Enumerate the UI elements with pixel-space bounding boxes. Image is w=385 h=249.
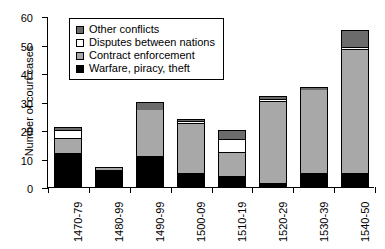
bar-segment bbox=[218, 176, 246, 187]
x-label-1540-50: 1540-50 bbox=[359, 202, 371, 242]
x-label-1470-79: 1470-79 bbox=[72, 202, 84, 242]
legend-label: Disputes between nations bbox=[89, 36, 215, 49]
legend-item: Warfare, piracy, theft bbox=[76, 62, 215, 75]
legend-item: Other conflicts bbox=[76, 23, 215, 36]
x-tick bbox=[375, 187, 376, 193]
legend-label: Contract enforcement bbox=[89, 49, 195, 62]
y-tick-label: 40 bbox=[21, 69, 33, 81]
legend-swatch-icon bbox=[76, 26, 84, 34]
bar-1470-79 bbox=[54, 127, 82, 187]
legend-swatch-icon bbox=[76, 65, 84, 73]
bar-1480-99 bbox=[95, 167, 123, 187]
bar-1510-19 bbox=[218, 130, 246, 187]
x-tick bbox=[212, 187, 213, 193]
legend-item: Contract enforcement bbox=[76, 49, 215, 62]
y-tick-label: 30 bbox=[21, 98, 33, 110]
bar-segment bbox=[218, 139, 246, 153]
bar-segment bbox=[341, 50, 369, 173]
y-tick-label: 20 bbox=[21, 126, 33, 138]
legend-label: Other conflicts bbox=[89, 23, 159, 36]
chart-legend: Other conflictsDisputes between nationsC… bbox=[69, 18, 224, 80]
legend-swatch-icon bbox=[76, 52, 84, 60]
bar-1490-99 bbox=[136, 102, 164, 187]
bar-segment bbox=[218, 153, 246, 176]
legend-swatch-icon bbox=[76, 39, 84, 47]
bar-segment bbox=[300, 173, 328, 187]
x-label-1520-29: 1520-29 bbox=[277, 202, 289, 242]
x-label-1490-99: 1490-99 bbox=[154, 202, 166, 242]
bar-segment bbox=[341, 173, 369, 187]
bar-segment bbox=[136, 156, 164, 187]
bar-segment bbox=[177, 124, 205, 172]
x-label-1530-39: 1530-39 bbox=[318, 202, 330, 242]
x-tick bbox=[171, 187, 172, 193]
bar-segment bbox=[341, 30, 369, 47]
bar-segment bbox=[136, 102, 164, 111]
bar-1520-29 bbox=[259, 96, 287, 187]
bar-segment bbox=[259, 102, 287, 183]
bar-1530-39 bbox=[300, 87, 328, 187]
bar-segment bbox=[300, 90, 328, 173]
x-label-1500-09: 1500-09 bbox=[195, 202, 207, 242]
bar-segment bbox=[177, 173, 205, 187]
stacked-bar-chart: Number of court cases 0102030405060 1470… bbox=[0, 0, 385, 249]
bar-segment bbox=[218, 130, 246, 139]
legend-item: Disputes between nations bbox=[76, 36, 215, 49]
x-tick bbox=[293, 187, 294, 193]
bar-segment bbox=[95, 170, 123, 187]
x-label-1510-19: 1510-19 bbox=[236, 202, 248, 242]
x-tick bbox=[252, 187, 253, 193]
x-label-1480-99: 1480-99 bbox=[113, 202, 125, 242]
bar-1500-09 bbox=[177, 119, 205, 187]
bar-segment bbox=[54, 153, 82, 187]
bar-segment bbox=[54, 139, 82, 153]
x-tick bbox=[130, 187, 131, 193]
x-tick bbox=[89, 187, 90, 193]
bar-segment bbox=[54, 130, 82, 139]
y-tick-label: 60 bbox=[21, 12, 33, 24]
y-tick-label: 50 bbox=[21, 41, 33, 53]
x-tick bbox=[334, 187, 335, 193]
bar-segment bbox=[259, 183, 287, 187]
bar-1540-50 bbox=[341, 30, 369, 187]
bar-segment bbox=[136, 110, 164, 156]
y-tick-label: 0 bbox=[27, 183, 33, 195]
legend-label: Warfare, piracy, theft bbox=[89, 62, 190, 75]
y-tick-label: 10 bbox=[21, 155, 33, 167]
x-tick bbox=[48, 187, 49, 193]
